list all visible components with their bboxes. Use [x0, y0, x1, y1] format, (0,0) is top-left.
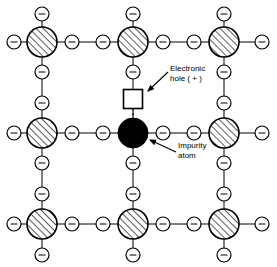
hole-label-line2: hole ( + ) — [170, 74, 205, 84]
impurity-label-line2: atom — [178, 151, 206, 161]
lattice-svg — [0, 0, 277, 267]
atom-bottom-right — [209, 209, 239, 239]
hole-label-line1: Electronic — [170, 64, 205, 74]
impurity-arrow — [150, 140, 176, 152]
atom-top-center — [118, 27, 148, 57]
impurity-atom — [118, 118, 148, 148]
atom-top-right — [209, 27, 239, 57]
atom-bottom-center — [118, 209, 148, 239]
hole-arrow — [148, 72, 168, 91]
atom-middle-left — [27, 118, 57, 148]
lattice-diagram: Electronic hole ( + ) Impurity atom — [0, 0, 277, 267]
electronic-hole-square — [124, 90, 143, 109]
impurity-label-line1: Impurity — [178, 141, 206, 151]
hole-label: Electronic hole ( + ) — [170, 64, 205, 84]
impurity-label: Impurity atom — [178, 141, 206, 161]
atom-top-left — [27, 27, 57, 57]
atom-bottom-left — [27, 209, 57, 239]
atom-middle-right — [209, 118, 239, 148]
